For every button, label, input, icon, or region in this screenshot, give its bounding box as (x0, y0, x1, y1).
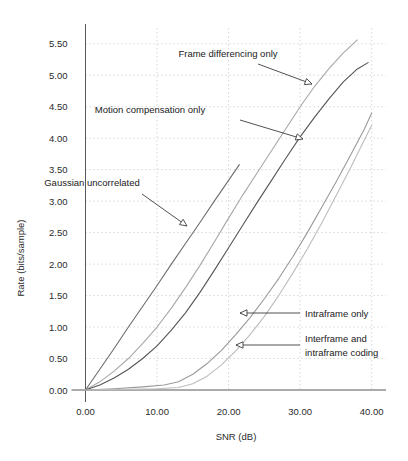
annotation-label: Intraframe only (305, 308, 369, 319)
annotation-label: Interframe and (305, 333, 367, 344)
x-tick-label: 0.00 (76, 406, 95, 417)
x-tick-label: 20.00 (217, 406, 241, 417)
annotation-label: Gaussian uncorrelated (44, 177, 140, 188)
chart-canvas: 0.000.501.001.502.002.503.003.504.004.50… (0, 0, 408, 461)
y-tick-label: 0.00 (49, 385, 68, 396)
y-tick-label: 4.50 (49, 101, 68, 112)
x-axis-title: SNR (dB) (216, 431, 257, 442)
annotation-label-line2: intraframe coding (305, 347, 378, 358)
rate-vs-snr-chart: 0.000.501.001.502.002.503.003.504.004.50… (0, 0, 408, 461)
y-tick-label: 2.00 (49, 259, 68, 270)
y-tick-label: 3.50 (49, 164, 68, 175)
x-tick-label: 10.00 (145, 406, 169, 417)
annotation-label: Motion compensation only (95, 104, 206, 115)
y-tick-label: 5.50 (49, 38, 68, 49)
y-tick-label: 3.00 (49, 196, 68, 207)
x-tick-label: 40.00 (360, 406, 384, 417)
annotation-label: Frame differencing only (178, 48, 277, 59)
x-tick-label: 30.00 (288, 406, 312, 417)
y-tick-label: 5.00 (49, 70, 68, 81)
y-tick-label: 1.00 (49, 322, 68, 333)
y-tick-label: 1.50 (49, 290, 68, 301)
y-tick-label: 4.00 (49, 133, 68, 144)
y-tick-label: 0.50 (49, 353, 68, 364)
y-axis-title: Rate (bits/sample) (15, 219, 26, 296)
y-tick-label: 2.50 (49, 227, 68, 238)
